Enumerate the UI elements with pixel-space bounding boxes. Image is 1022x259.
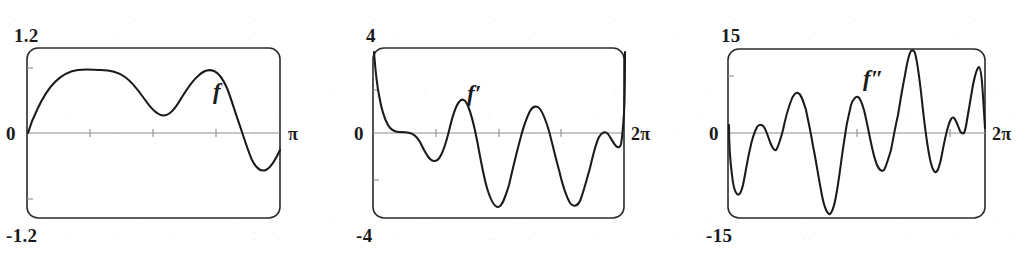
- panel-f-fn-label: f: [213, 79, 223, 104]
- panel-f-curve: [28, 70, 280, 171]
- panel-f: f 1.2 0 -1.2 π: [0, 0, 340, 259]
- panel-f-prime-plot: f′: [340, 0, 680, 259]
- panel-f-zero-label: 0: [6, 124, 16, 143]
- panel-f-double-prime-ymin-label: -15: [706, 226, 732, 245]
- panel-f-double-prime: f″ 15 0 -15 2π: [680, 0, 1022, 259]
- panel-f-double-prime-ymax-label: 15: [721, 26, 741, 45]
- panel-f-prime-fn-label: f′: [467, 81, 481, 106]
- panel-f-double-prime-zero-label: 0: [709, 124, 719, 143]
- panel-f-ymax-label: 1.2: [14, 26, 39, 45]
- panel-f-prime-zero-label: 0: [354, 124, 364, 143]
- panel-f-ymin-label: -1.2: [6, 226, 37, 245]
- panel-f-prime-xmax-label: 2π: [631, 125, 650, 143]
- panel-f-prime-ymax-label: 4: [366, 26, 376, 45]
- panel-f-double-prime-fn-label: f″: [863, 66, 883, 91]
- panel-f-prime: f′ 4 0 -4 2π: [340, 0, 680, 259]
- figure-container: f 1.2 0 -1.2 π f′ 4 0 -4 2π: [0, 0, 1022, 259]
- panel-f-prime-ymin-label: -4: [356, 226, 372, 245]
- panel-f-double-prime-xmax-label: 2π: [992, 125, 1011, 143]
- panel-f-xmax-label: π: [288, 125, 298, 143]
